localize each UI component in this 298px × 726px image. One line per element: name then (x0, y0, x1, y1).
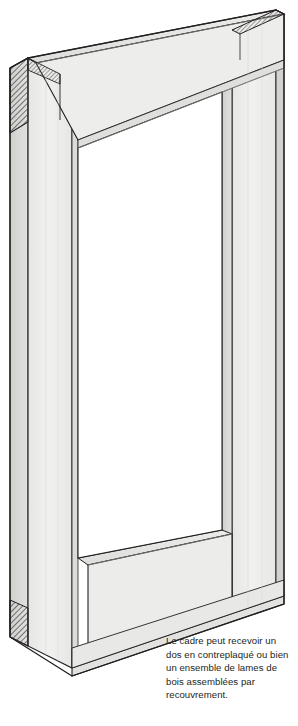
top-left-joint-endgrain-hatch (10, 58, 28, 133)
frame-isometric-drawing (0, 0, 298, 726)
right-stile-front-face (232, 10, 276, 615)
figure-page: Le cadre peut recevoir un dos en contrep… (0, 0, 298, 726)
left-stile (10, 58, 78, 670)
left-stile-outer-side-face (10, 58, 28, 646)
figure-caption: Le cadre peut recevoir un dos en contrep… (166, 634, 294, 702)
right-stile-outer-edge (276, 10, 284, 596)
left-stile-inner-band (72, 82, 78, 670)
right-stile (222, 10, 284, 620)
inner-opening (78, 92, 222, 558)
left-stile-front-face (28, 58, 72, 668)
